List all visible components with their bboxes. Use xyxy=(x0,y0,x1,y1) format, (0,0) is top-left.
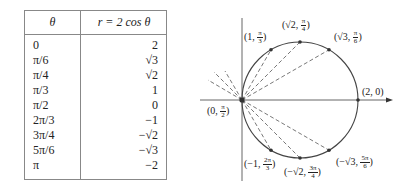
point-label-3pi4: (−√2, 3π4) xyxy=(284,165,321,180)
point-label-2-0: (2, 0) xyxy=(362,86,384,97)
point-label-pi2: (0, π2) xyxy=(207,104,229,119)
point-label-5pi6: (−√3, 5π6) xyxy=(336,155,373,170)
point-label-pi3: (1, π3) xyxy=(244,30,266,45)
point-label-pi4: (√2, π4) xyxy=(282,18,310,33)
point-label-2pi3: (−1, 2π3) xyxy=(244,157,275,172)
point-label-pi6: (√3, π6) xyxy=(334,30,362,45)
axis-arrow-icon xyxy=(386,98,393,103)
polar-graph xyxy=(0,0,393,190)
